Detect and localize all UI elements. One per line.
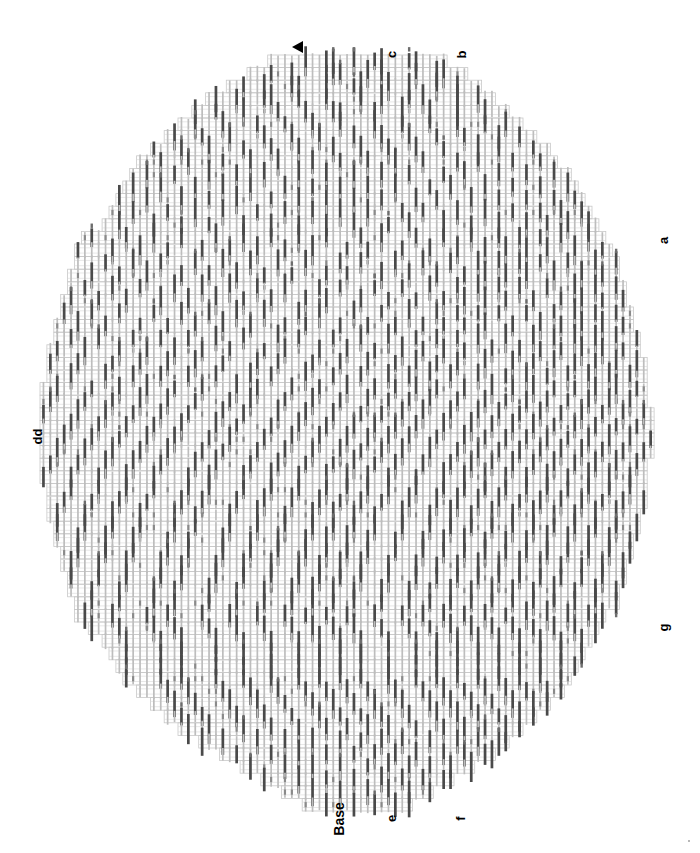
label-base: Base: [332, 802, 346, 835]
matrix-plot: [0, 0, 700, 853]
label-g: g: [657, 624, 670, 632]
corner-speck: [688, 840, 690, 842]
label-dd: dd: [31, 429, 44, 445]
label-a: a: [657, 237, 670, 244]
label-f: f: [454, 816, 467, 820]
triangle-marker-icon: [292, 41, 303, 53]
label-c: c: [385, 51, 398, 58]
figure-canvas: c b a g dd Base e f: [0, 0, 700, 853]
label-b: b: [455, 51, 468, 59]
label-e: e: [385, 815, 398, 822]
